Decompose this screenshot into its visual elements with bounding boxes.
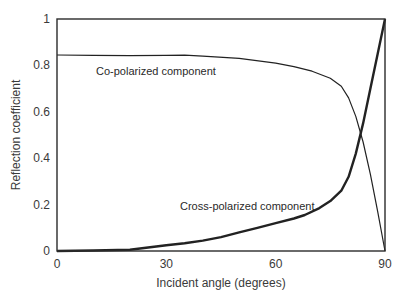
x-tick-label: 30 [160,257,174,271]
y-tick-label: 0.4 [33,151,50,165]
x-tick-labels: 0306090 [54,257,392,271]
co-polarized-line [57,55,385,251]
cross-polarized-annotation: Cross-polarized component [180,200,315,212]
reflection-coefficient-chart: 00.20.40.60.81 0306090 Incident angle (d… [0,0,409,303]
x-tick-label: 60 [269,257,283,271]
x-axis-label: Incident angle (degrees) [156,276,285,290]
y-axis-label: Reflection coefficient [9,79,23,190]
co-polarized-annotation: Co-polarized component [96,65,216,77]
y-tick-label: 0.8 [33,58,50,72]
y-tick-label: 0 [43,244,50,258]
y-tick-label: 0.6 [33,105,50,119]
y-tick-labels: 00.20.40.60.81 [33,12,50,258]
x-tick-label: 0 [54,257,61,271]
plot-frame [57,19,385,251]
plot-lines [57,19,385,251]
y-tick-label: 0.2 [33,198,50,212]
cross-polarized-line [57,19,385,251]
y-tick-label: 1 [43,12,50,26]
x-tick-label: 90 [378,257,392,271]
